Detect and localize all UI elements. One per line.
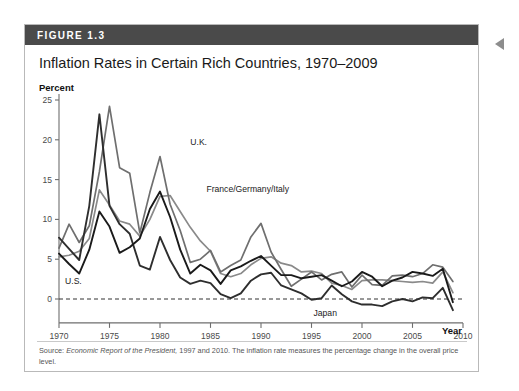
y-axis-title: Percent (39, 82, 74, 93)
y-tick-label: 20 (43, 135, 53, 145)
series-annotation: U.S. (65, 276, 82, 286)
series-line (59, 190, 453, 293)
figure-header-bar: FIGURE 1.3 (25, 25, 478, 45)
x-axis-title: Year (442, 325, 462, 336)
series-line (59, 114, 453, 310)
y-tick-label: 5 (47, 254, 52, 264)
x-tick-label: 2005 (403, 331, 422, 341)
series-line (59, 192, 453, 303)
figure-card: FIGURE 1.3 Inflation Rates in Certain Ri… (24, 24, 479, 372)
series-annotation: Japan (314, 308, 338, 318)
figure-number-label: FIGURE 1.3 (37, 30, 105, 41)
series-annotation: U.K. (190, 137, 207, 147)
x-tick-label: 1975 (100, 331, 119, 341)
y-tick-label: 10 (43, 214, 53, 224)
source-prefix: Source: (39, 346, 64, 355)
chart-title: Inflation Rates in Certain Rich Countrie… (39, 55, 378, 71)
source-publication: Economic Report of the President, (66, 346, 177, 355)
x-tick-label: 1970 (50, 331, 69, 341)
series-line (59, 106, 453, 287)
x-tick-label: 1990 (252, 331, 271, 341)
line-chart-plot: 0510152025197019751980198519901995200020… (25, 25, 480, 373)
x-tick-label: 2000 (353, 331, 372, 341)
x-tick-label: 1995 (302, 331, 321, 341)
footer-divider (37, 341, 467, 342)
y-tick-label: 15 (43, 175, 53, 185)
x-tick-label: 1985 (201, 331, 220, 341)
y-tick-label: 25 (43, 95, 53, 105)
y-tick-label: 0 (47, 294, 52, 304)
source-note: Source: Economic Report of the President… (39, 346, 463, 367)
left-triangle-icon (495, 38, 504, 50)
x-tick-label: 1980 (151, 331, 170, 341)
series-annotation: France/Germany/Italy (206, 184, 289, 194)
